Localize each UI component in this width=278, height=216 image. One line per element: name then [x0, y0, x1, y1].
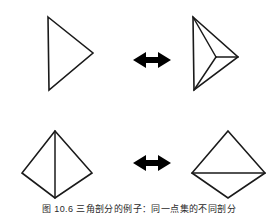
double-headed-arrow-bottom	[133, 155, 171, 171]
double-headed-arrow-icon	[133, 155, 171, 171]
triangle-plain-outline	[48, 17, 93, 90]
triangle-interior-edge-c	[194, 57, 216, 90]
quad-horizontal-diagonal	[192, 131, 265, 198]
double-headed-arrow-icon	[133, 52, 171, 68]
triangle-subdivided	[193, 17, 238, 90]
triangle-interior-edge-a	[193, 17, 216, 57]
triangle-plain	[48, 17, 93, 90]
double-headed-arrow-top	[133, 52, 171, 68]
quad-horizontal-outline	[192, 131, 265, 198]
figure-caption: 图 10.6 三角剖分的例子：同一点集的不同剖分	[0, 204, 278, 216]
row-bottom	[22, 131, 265, 198]
figure-container: 图 10.6 三角剖分的例子：同一点集的不同剖分	[0, 0, 278, 216]
quad-vertical-diagonal	[22, 131, 92, 198]
quad-vertical-outline	[22, 131, 92, 198]
figure-canvas	[0, 0, 278, 216]
row-top	[48, 17, 238, 90]
